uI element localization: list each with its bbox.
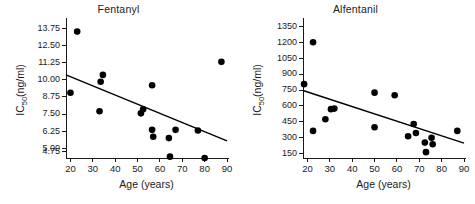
data-point	[371, 89, 378, 96]
y-tick-label: 7.50	[42, 108, 60, 118]
scatter-plot-alfentanil: 1503004506007509001050120013502030405060…	[237, 0, 474, 204]
x-tick-label: 60	[392, 163, 403, 174]
y-tick-label: 13.75	[37, 23, 60, 33]
x-tick-label: 70	[414, 163, 425, 174]
x-tick-label: 90	[222, 163, 233, 174]
y-axis-title: IC50(ng/ml)	[14, 64, 29, 116]
data-point	[100, 72, 107, 79]
data-point	[149, 127, 156, 134]
scatter-plot-fentanyl: 4.755.006.257.508.7510.0011.2512.5013.75…	[0, 0, 237, 204]
x-tick-label: 30	[88, 163, 99, 174]
y-axis-title-unit: (ng/ml)	[251, 64, 263, 97]
data-point	[96, 108, 103, 115]
regression-line	[66, 75, 227, 141]
x-axis-title: Age (years)	[119, 178, 173, 190]
y-axis-title-subscript: 50	[20, 97, 29, 105]
data-point	[331, 105, 338, 112]
x-tick-label: 30	[325, 163, 336, 174]
y-tick-label: 5.00	[42, 143, 60, 153]
y-tick-label: 600	[282, 100, 297, 110]
y-tick-label: 1050	[277, 53, 297, 63]
data-point	[167, 153, 174, 160]
data-point	[429, 141, 436, 148]
data-point	[322, 116, 329, 123]
x-tick-label: 50	[369, 163, 380, 174]
x-tick-label: 40	[110, 163, 121, 174]
data-point	[423, 149, 430, 156]
data-point	[413, 130, 420, 137]
data-point	[371, 124, 378, 131]
y-tick-label: 150	[282, 148, 297, 158]
y-axis-title-subscript: 50	[257, 97, 266, 105]
y-tick-label: 12.50	[37, 40, 60, 50]
data-point	[67, 89, 74, 96]
data-point	[74, 28, 81, 35]
data-point	[428, 135, 435, 142]
y-tick-label: 1200	[277, 37, 297, 47]
data-point	[410, 121, 417, 128]
panel-fentanyl: Fentanyl 4.755.006.257.508.7510.0011.251…	[0, 0, 237, 204]
data-point	[391, 92, 398, 99]
data-point	[172, 127, 179, 134]
data-point	[97, 78, 104, 85]
data-point	[310, 128, 317, 135]
x-tick-label: 50	[132, 163, 143, 174]
data-point	[166, 135, 173, 142]
figure-container: Fentanyl 4.755.006.257.508.7510.0011.251…	[0, 0, 475, 204]
x-axis-title: Age (years)	[356, 178, 410, 190]
data-point	[195, 127, 202, 134]
y-axis-title-main: IC	[251, 105, 263, 116]
x-tick-label: 80	[199, 163, 210, 174]
x-tick-label: 70	[177, 163, 188, 174]
data-point	[310, 39, 317, 46]
y-tick-label: 6.25	[42, 126, 60, 136]
y-tick-label: 11.25	[38, 57, 60, 67]
x-tick-label: 20	[65, 163, 76, 174]
y-tick-label: 450	[282, 116, 297, 126]
data-point	[218, 59, 225, 66]
data-point	[422, 139, 429, 146]
y-axis-title: IC50(ng/ml)	[251, 64, 266, 116]
x-tick-label: 40	[347, 163, 358, 174]
data-point	[405, 133, 412, 140]
x-tick-label: 20	[302, 163, 313, 174]
x-tick-label: 90	[459, 163, 470, 174]
panel-alfentanil: Alfentanil 15030045060075090010501200135…	[237, 0, 474, 204]
x-tick-label: 80	[436, 163, 447, 174]
y-axis-title-unit: (ng/ml)	[14, 64, 26, 97]
data-point	[140, 106, 147, 113]
y-tick-label: 900	[282, 68, 297, 78]
y-tick-label: 300	[282, 132, 297, 142]
data-point	[149, 82, 156, 89]
y-tick-label: 750	[282, 84, 297, 94]
data-point	[150, 133, 157, 140]
data-point	[301, 81, 308, 88]
data-point	[201, 155, 208, 162]
y-tick-label: 10.00	[37, 74, 60, 84]
x-tick-label: 60	[155, 163, 166, 174]
data-point	[454, 128, 461, 135]
y-tick-label: 8.75	[42, 91, 60, 101]
y-axis-title-main: IC	[14, 105, 26, 116]
y-tick-label: 1350	[277, 21, 297, 31]
